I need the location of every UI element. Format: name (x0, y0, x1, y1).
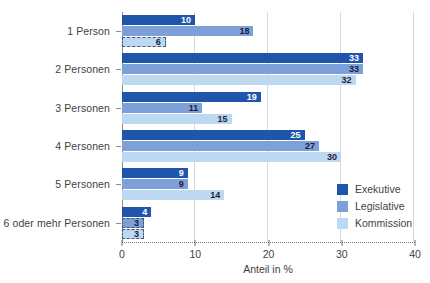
bar: 19 (122, 92, 261, 102)
y-tick-cell (110, 89, 122, 127)
y-tick (116, 69, 121, 70)
x-tick (415, 240, 416, 246)
bar: 4 (122, 207, 151, 217)
bar-value-label: 33 (122, 53, 363, 63)
bar-chart: 1 Person101862 Personen3333323 Personen1… (0, 0, 430, 283)
x-tick (122, 240, 123, 246)
category-label: 6 oder mehr Personen (0, 204, 110, 242)
bar-value-label: 25 (122, 130, 305, 140)
legend-swatch-legislative (337, 201, 348, 212)
bars-container: 333332 (122, 50, 414, 88)
bar: 15 (122, 114, 232, 124)
legend-item-legislative: Legislative (337, 200, 412, 212)
bar: 6 (122, 37, 166, 47)
bar: 32 (122, 75, 356, 85)
y-tick-cell (110, 127, 122, 165)
category-label: 5 Personen (0, 165, 110, 203)
y-tick (116, 146, 121, 147)
category-group: 4 Personen252730 (0, 127, 430, 165)
bars-container: 252730 (122, 127, 414, 165)
bar-value-label: 18 (122, 26, 253, 36)
bar-value-label: 4 (122, 207, 151, 217)
bar: 33 (122, 64, 363, 74)
legend-item-kommission: Kommission (337, 217, 412, 229)
bars-container: 10186 (122, 12, 414, 50)
y-tick-cell (110, 165, 122, 203)
bar: 9 (122, 168, 188, 178)
category-group: 3 Personen191115 (0, 89, 430, 127)
legend-item-exekutive: Exekutive (337, 183, 412, 195)
bar-value-label: 19 (122, 92, 261, 102)
bar: 30 (122, 152, 341, 162)
category-label: 4 Personen (0, 127, 110, 165)
x-axis-title: Anteil in % (122, 263, 414, 275)
x-tick-labels: 010203040 (122, 248, 415, 260)
x-tick-label: 30 (336, 248, 348, 260)
bars-container: 191115 (122, 89, 414, 127)
bar: 27 (122, 141, 319, 151)
x-tick (268, 240, 269, 246)
bar-value-label: 30 (122, 152, 341, 162)
bar-value-label: 27 (122, 141, 319, 151)
bar: 10 (122, 15, 195, 25)
bar-value-label: 33 (122, 64, 363, 74)
bar-value-label: 9 (122, 168, 188, 178)
x-tick-label: 40 (409, 248, 421, 260)
bar-value-label: 11 (122, 103, 202, 113)
x-tick-label: 0 (119, 248, 125, 260)
bar-value-label: 3 (123, 230, 143, 238)
y-tick-cell (110, 50, 122, 88)
bar-value-label: 6 (123, 38, 165, 46)
y-tick (116, 184, 121, 185)
y-tick (116, 31, 121, 32)
bar: 14 (122, 190, 224, 200)
bar: 3 (122, 229, 144, 239)
bar-value-label: 15 (122, 114, 232, 124)
legend-swatch-exekutive (337, 184, 348, 195)
bar: 18 (122, 26, 253, 36)
x-tick-label: 10 (189, 248, 201, 260)
category-label: 2 Personen (0, 50, 110, 88)
y-tick (116, 108, 121, 109)
bar-value-label: 10 (122, 15, 195, 25)
bar: 3 (122, 218, 144, 228)
x-axis (122, 242, 415, 243)
bar-value-label: 32 (122, 75, 356, 85)
category-label: 1 Person (0, 12, 110, 50)
x-tick (341, 240, 342, 246)
category-label: 3 Personen (0, 89, 110, 127)
x-tick (195, 240, 196, 246)
y-tick (116, 223, 121, 224)
bar-value-label: 14 (122, 190, 224, 200)
legend-label: Legislative (355, 200, 405, 212)
legend-label: Kommission (355, 217, 412, 229)
y-tick-cell (110, 12, 122, 50)
bar: 25 (122, 130, 305, 140)
bar-value-label: 3 (123, 219, 143, 227)
bar: 11 (122, 103, 202, 113)
category-group: 2 Personen333332 (0, 50, 430, 88)
y-tick-cell (110, 204, 122, 242)
bar: 9 (122, 179, 188, 189)
legend-swatch-kommission (337, 218, 348, 229)
category-group: 1 Person10186 (0, 12, 430, 50)
bar: 33 (122, 53, 363, 63)
x-tick-label: 20 (263, 248, 275, 260)
bar-value-label: 9 (122, 179, 188, 189)
legend: Exekutive Legislative Kommission (337, 183, 412, 229)
legend-label: Exekutive (355, 183, 401, 195)
